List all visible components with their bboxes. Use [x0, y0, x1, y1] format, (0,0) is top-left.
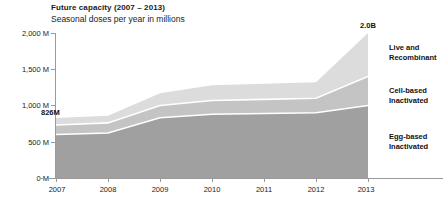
series-label-cell-based-inactivated: Cell-based Inactivated — [389, 86, 428, 105]
x-axis-line — [40, 178, 443, 179]
x-axis-tick — [212, 178, 213, 182]
x-axis-label: 2013 — [358, 185, 375, 194]
x-axis-label: 2010 — [204, 185, 221, 194]
x-axis-label: 2008 — [100, 185, 117, 194]
series-label-live-and-recombinant: Live and Recombinant — [389, 43, 437, 62]
area-chart: Future capacity (2007 – 2013) Seasonal d… — [0, 0, 443, 204]
x-axis-tick — [160, 178, 161, 182]
series-label-line1: Egg-based — [389, 132, 428, 142]
y-axis-label-group: 500 M — [0, 138, 49, 147]
series-label-line2: Recombinant — [389, 53, 437, 63]
series-label-line2: Inactivated — [389, 142, 428, 152]
series-label-line1: Cell-based — [389, 86, 428, 96]
x-axis-tick — [368, 178, 369, 182]
y-axis-label: 1,500 M — [1, 65, 49, 74]
x-axis-tick — [316, 178, 317, 182]
chart-subtitle: Seasonal doses per year in millions — [51, 14, 185, 24]
y-axis-label: 500 M — [1, 138, 49, 147]
stacked-area-svg — [56, 33, 368, 178]
series-label-egg-based-inactivated: Egg-based Inactivated — [389, 132, 428, 151]
annotation-end-total: 2.0B — [360, 21, 376, 30]
series-label-line2: Inactivated — [389, 96, 428, 106]
annotation-start-total: 826M — [41, 108, 60, 117]
y-axis-label: 2,000 M — [1, 29, 49, 38]
x-axis-label: 2011 — [256, 185, 272, 194]
x-axis-label: 2007 — [49, 185, 66, 194]
x-axis-tick — [264, 178, 265, 182]
chart-title: Future capacity (2007 – 2013) — [51, 3, 165, 13]
x-axis-label: 2012 — [308, 185, 325, 194]
series-label-line1: Live and — [389, 43, 437, 53]
x-axis-tick — [56, 178, 57, 182]
plot-area — [56, 33, 368, 178]
x-axis-tick — [108, 178, 109, 182]
x-axis-label: 2009 — [152, 185, 169, 194]
y-axis-label-group: 2,000 M — [0, 29, 49, 38]
y-axis-label-group: 1,500 M — [0, 65, 49, 74]
